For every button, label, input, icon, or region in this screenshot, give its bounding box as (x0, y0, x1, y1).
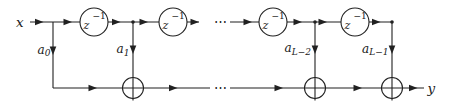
delay-label-exponent: −1 (172, 11, 185, 21)
tap-label-a0: a0 (38, 43, 51, 59)
ellipsis-bottom: ⋯ (214, 80, 227, 95)
delay-block-2: z −1 (159, 8, 187, 36)
adder-1 (123, 78, 144, 101)
arrowhead (319, 19, 328, 26)
arrowhead (35, 19, 44, 26)
adder-3 (382, 78, 403, 101)
arrowhead (244, 19, 253, 26)
arrowhead (64, 19, 73, 26)
delay-label-exponent: −1 (354, 11, 367, 21)
tap-label-aL1: aL−1 (362, 42, 388, 58)
arrowhead (372, 19, 381, 26)
junction-dot (131, 20, 135, 24)
diagram-canvas: z −1 z −1 z −1 z −1 (0, 0, 460, 106)
input-label: x (16, 14, 24, 30)
delay-block-1: z −1 (80, 8, 108, 36)
arrowhead (112, 19, 121, 26)
adder-2 (305, 78, 326, 101)
down-arrowhead (50, 47, 57, 56)
tap-arrowheads (50, 46, 396, 56)
arrowhead (354, 85, 363, 92)
arrowhead (294, 19, 303, 26)
arrowhead (191, 19, 200, 26)
delay-block-4: z −1 (341, 8, 369, 36)
junction-dot (313, 20, 317, 24)
down-arrowhead (389, 46, 396, 55)
delay-label-base: z (162, 19, 169, 32)
delay-label-base: z (344, 19, 351, 32)
junction-dot (390, 20, 394, 24)
arrowhead (409, 85, 418, 92)
arrowhead (275, 85, 284, 92)
arrowhead (89, 85, 98, 92)
delay-label-exponent: −1 (93, 11, 106, 21)
delay-label-base: z (262, 19, 269, 32)
down-arrowhead (130, 46, 137, 55)
output-label: y (427, 80, 436, 96)
delay-label-base: z (83, 19, 90, 32)
tap-label-aL2: aL−2 (285, 41, 312, 57)
delay-block-3: z −1 (259, 8, 287, 36)
ellipsis-top: ⋯ (214, 14, 227, 29)
arrowhead (140, 19, 149, 26)
tap-label-a1: a1 (117, 42, 130, 58)
arrowhead (169, 85, 178, 92)
fir-filter-diagram: z −1 z −1 z −1 z −1 (0, 0, 460, 106)
delay-label-exponent: −1 (272, 11, 285, 21)
down-arrowhead (312, 46, 319, 55)
